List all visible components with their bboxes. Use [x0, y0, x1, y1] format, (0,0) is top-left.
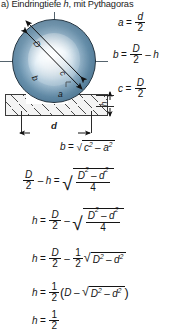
equation-b-definition: b = D 2 – h [113, 44, 159, 65]
pyth-equals: = [68, 141, 74, 152]
equation-a-definition: a = d 2 [118, 12, 146, 33]
step4-lhs: h [32, 287, 38, 298]
radical-sign-step2: √ [72, 208, 82, 233]
radical-sign-step3: √ [84, 252, 91, 265]
eq-b-term: h [153, 49, 159, 60]
radical-step1: √ D2–d2 4 [62, 168, 114, 193]
step1-lhs-den: 2 [24, 181, 34, 191]
equation-step4: h = 1 2 ( D – √ D2 – d2 ) [32, 282, 129, 303]
step3-first-fraction: D 2 [49, 248, 60, 269]
radical-step2: √ D2–d2 4 [72, 208, 124, 233]
step3-half-fraction: 1 2 [73, 248, 83, 269]
eq-b-operator: – [145, 49, 151, 60]
step1-equals: = [54, 175, 60, 186]
equation-step5-partial: h = 1 2 [32, 310, 60, 331]
ball-indentation-diagram: D b c a h [0, 11, 112, 136]
step4-operator: – [74, 287, 80, 298]
step3-rad-op: – [106, 254, 112, 265]
equation-step1: D 2 – h = √ D2–d2 4 [22, 168, 114, 193]
step1-rad-num: D2–d2 [76, 170, 111, 183]
label-d: d [51, 120, 57, 131]
step4-rad-left-exp: 2 [98, 287, 102, 294]
eq-c-lhs: c [118, 83, 123, 94]
step2-t1-den: 2 [50, 221, 60, 231]
step2-inner-fraction: D2–d2 4 [86, 210, 121, 233]
step2-rad-den: 4 [98, 223, 108, 233]
eq-b-equals: = [121, 49, 127, 60]
step2-rad-num: D2–d2 [86, 210, 121, 223]
step2-equals: = [40, 215, 46, 226]
step3-rad-left-exp: 2 [100, 253, 104, 260]
step4-close-paren: ) [125, 286, 129, 300]
radical-c2-minus-a2: √ c2 – a2 [76, 140, 115, 153]
step4-rad-left: D [91, 288, 98, 299]
equation-c-definition: c = D 2 [118, 78, 147, 99]
label-h: h [99, 102, 109, 107]
step2-lhs: h [32, 215, 38, 226]
step3-rad-left: D [93, 254, 100, 265]
step5-half-fraction: 1 2 [49, 310, 59, 331]
eq-c-den: 2 [136, 89, 146, 99]
depth-dimension: h [103, 91, 117, 117]
pyth-lhs: b [60, 141, 66, 152]
step1-lhs-term: h [46, 175, 52, 186]
step2-operator: – [64, 215, 70, 226]
step1-lhs-fraction: D 2 [23, 170, 34, 191]
radical-step4: √ D2 – d2 [82, 286, 125, 299]
eq-a-den: 2 [135, 23, 145, 33]
step1-rad-den: 4 [88, 183, 98, 193]
pyth-operator: – [95, 142, 101, 153]
title-suffix: , mit Pythagoras [69, 0, 134, 9]
step1-lhs-op: – [38, 175, 44, 186]
radical-step3: √ D2 – d2 [84, 252, 127, 265]
label-a: a [58, 89, 63, 99]
radical-sign-step4: √ [82, 286, 89, 299]
fraction-d-over-2: d 2 [135, 12, 145, 33]
pyth-c-exp: 2 [89, 141, 93, 148]
step3-lhs: h [32, 253, 38, 264]
indent-diameter-dimension: d [18, 121, 96, 137]
equation-step3: h = D 2 – 1 2 √ D2 – d2 [32, 248, 126, 269]
step4-rad-op: – [104, 288, 110, 299]
step3-t1-den: 2 [50, 259, 60, 269]
step4-rad-right-exp: 2 [118, 287, 122, 294]
eq-c-equals: = [126, 83, 132, 94]
step5-t1-den: 2 [49, 321, 59, 331]
step5-lhs: h [32, 315, 38, 326]
step3-rad-right-exp: 2 [120, 253, 124, 260]
step3-t2-den: 2 [73, 259, 83, 269]
sphere-shading [13, 20, 95, 102]
title-prefix: a) Eindringtiefe [1, 0, 64, 9]
step3-operator: – [64, 253, 70, 264]
step1-inner-fraction: D2–d2 4 [76, 170, 111, 193]
indenter-sphere [12, 19, 96, 103]
eq-a-equals: = [126, 17, 132, 28]
equation-pythagoras: b = √ c2 – a2 [60, 140, 115, 153]
step4-equals: = [40, 287, 46, 298]
eq-a-lhs: a [118, 17, 124, 28]
eq-b-den: 2 [131, 55, 141, 65]
page-title: a) Eindringtiefe h, mit Pythagoras [1, 0, 133, 9]
radical-sign-step1: √ [62, 168, 72, 193]
pyth-a-exp: 2 [109, 141, 113, 148]
step2-first-fraction: D 2 [49, 210, 60, 231]
step5-equals: = [40, 315, 46, 326]
step4-term: D [64, 287, 71, 298]
fraction-D-over-2-c: D 2 [135, 78, 146, 99]
fraction-D-over-2: D 2 [130, 44, 141, 65]
step4-t1-den: 2 [49, 293, 59, 303]
equation-step2: h = D 2 – √ D2–d2 4 [32, 208, 124, 233]
step3-equals: = [40, 253, 46, 264]
eq-b-lhs: b [113, 49, 119, 60]
step4-half-fraction: 1 2 [49, 282, 59, 303]
